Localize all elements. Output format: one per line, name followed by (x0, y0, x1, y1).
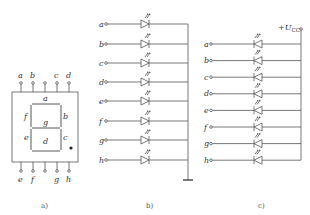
led-icon (141, 156, 149, 164)
led-icon (141, 78, 149, 86)
led-row-f: f (203, 117, 301, 132)
input-terminal (105, 43, 108, 46)
led-icon (254, 40, 262, 48)
input-terminal (105, 62, 108, 65)
pin-label-h: h (66, 175, 71, 184)
input-terminal (210, 126, 213, 129)
segment-label-e: e (24, 133, 29, 142)
segment-label-f: f (23, 112, 29, 121)
bottom-pins: e f g h (18, 162, 71, 184)
caption-b: b) (146, 202, 153, 210)
input-label-a: a (99, 20, 104, 29)
led-row-d: d (99, 72, 188, 87)
segment-label-a: a (43, 94, 48, 103)
pin-label-c: c (54, 71, 59, 80)
supply-terminal (300, 28, 303, 31)
segment-label-d: d (43, 137, 48, 146)
pin-label-e: e (18, 175, 23, 184)
pin-label-f: f (30, 175, 36, 184)
input-label-h: h (204, 156, 209, 165)
led-icon (254, 123, 262, 131)
input-terminal (210, 142, 213, 145)
input-terminal (105, 120, 108, 123)
pin-label-g: g (54, 175, 59, 184)
pin-label-a: a (18, 71, 23, 80)
decimal-point (69, 146, 72, 149)
led-row-f: f (98, 111, 188, 126)
led-row-h: h (99, 150, 188, 165)
top-pins: a b c d (18, 71, 71, 92)
common-anode-circuit: +UCC abcdefgh c) (203, 23, 302, 210)
input-terminal (210, 159, 213, 162)
led-icon (254, 156, 262, 164)
segment-display: a f b g e c d (23, 94, 73, 151)
led-row-e: e (99, 91, 188, 106)
led-row-d: d (204, 84, 301, 99)
led-icon (141, 59, 149, 67)
input-label-c: c (204, 73, 209, 82)
input-terminal (105, 139, 108, 142)
input-terminal (105, 81, 108, 84)
input-label-a: a (204, 40, 209, 49)
led-icon (254, 57, 262, 65)
seven-segment-diagram: a b c d e f g h a f (0, 0, 310, 215)
input-label-g: g (204, 139, 209, 148)
common-cathode-circuit: abcdefgh b) (98, 14, 193, 210)
led-row-a: a (204, 34, 301, 49)
led-icon (141, 40, 149, 48)
led-row-g: g (204, 134, 301, 149)
segment-label-c: c (63, 133, 68, 142)
segment-label-g: g (43, 118, 48, 127)
led-icon (254, 73, 262, 81)
led-icon (141, 97, 149, 105)
input-label-e: e (204, 106, 209, 115)
input-label-b: b (99, 40, 104, 49)
pin-label-d: d (66, 71, 71, 80)
led-row-b: b (204, 51, 301, 66)
input-terminal (210, 109, 213, 112)
input-terminal (105, 23, 108, 26)
seven-segment-package: a b c d e f g h a f (12, 71, 78, 210)
input-label-c: c (99, 59, 104, 68)
led-icon (141, 136, 149, 144)
input-label-b: b (204, 56, 209, 65)
input-label-d: d (99, 78, 104, 87)
input-label-f: f (98, 117, 104, 126)
input-terminal (105, 159, 108, 162)
input-terminal (210, 59, 213, 62)
led-row-h: h (204, 150, 301, 165)
input-label-e: e (99, 97, 104, 106)
input-terminal (210, 76, 213, 79)
pin-label-b: b (30, 71, 35, 80)
led-icon (254, 140, 262, 148)
input-terminal (210, 43, 213, 46)
led-icon (254, 90, 262, 98)
input-label-d: d (204, 89, 209, 98)
led-row-a: a (99, 14, 188, 29)
led-icon (141, 20, 149, 28)
input-label-f: f (203, 123, 209, 132)
supply-label: +UCC (278, 23, 300, 33)
led-row-c: c (204, 67, 301, 82)
input-terminal (210, 93, 213, 96)
caption-c: c) (258, 202, 265, 210)
input-terminal (105, 100, 108, 103)
input-label-g: g (99, 136, 104, 145)
input-label-h: h (99, 156, 104, 165)
led-icon (141, 117, 149, 125)
led-row-g: g (99, 130, 188, 145)
led-row-c: c (99, 53, 188, 68)
led-icon (254, 106, 262, 114)
led-row-b: b (99, 34, 188, 49)
segment-label-b: b (63, 112, 68, 121)
caption-a: a) (41, 202, 48, 210)
led-row-e: e (204, 100, 301, 115)
